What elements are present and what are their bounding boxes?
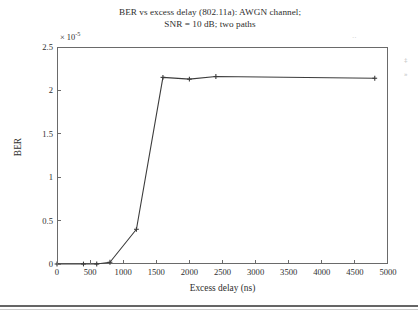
y-tick-mark [57,90,61,91]
x-tick-label: 0 [55,267,59,277]
x-tick-mark [90,260,91,264]
x-tick-mark [387,260,388,264]
x-tick-mark [288,260,289,264]
data-point-marker [187,77,192,82]
y-axis-exponent: × 10-5 [60,30,80,42]
y-tick-mark [57,47,61,48]
data-point-marker [213,74,218,79]
x-tick-label: 500 [84,267,97,277]
data-series-svg [57,47,388,264]
series-line-ber [57,77,375,264]
x-axis-label: Excess delay (ns) [57,283,388,293]
series-markers-ber [55,74,378,266]
x-tick-label: 3500 [280,267,297,277]
x-tick-mark [255,260,256,264]
x-tick-label: 2000 [181,267,198,277]
data-point-marker [372,76,377,81]
x-tick-label: 3000 [247,267,264,277]
x-tick-mark [321,260,322,264]
page-separator-rule [0,305,418,307]
x-tick-label: 4500 [346,267,363,277]
y-tick-mark [57,220,61,221]
x-tick-mark [222,260,223,264]
y-tick-label: 0 [7,259,53,269]
y-tick-label: 2 [7,85,53,95]
x-axis-tick-labels: 0500100015002000250030003500400045005000 [57,267,388,281]
x-tick-label: 5000 [379,267,396,277]
chart-title-line-2: SNR = 10 dB; two paths [60,18,360,30]
y-tick-mark [57,264,61,265]
y-tick-label: 0.5 [7,216,53,226]
x-tick-mark [189,260,190,264]
y-axis-label: BER [13,117,23,177]
x-tick-mark [123,260,124,264]
y-tick-mark [57,177,61,178]
data-point-marker [161,75,166,80]
plot-area [57,47,388,264]
scan-artifact-right-2: » [404,70,408,78]
scan-artifact-top: ·· [352,34,357,42]
chart-figure: BER vs excess delay (802.11a): AWGN chan… [0,0,418,314]
x-tick-mark [156,260,157,264]
x-tick-mark [354,260,355,264]
y-tick-label: 2.5 [7,42,53,52]
x-tick-label: 2500 [214,267,231,277]
data-point-marker [94,262,99,267]
page-separator-rule-secondary [0,309,418,310]
chart-title-line-1: BER vs excess delay (802.11a): AWGN chan… [60,6,360,18]
x-tick-mark [57,260,58,264]
x-tick-label: 1000 [115,267,132,277]
chart-title: BER vs excess delay (802.11a): AWGN chan… [60,6,360,30]
scan-artifact-right-1: ‡ [404,56,408,64]
y-tick-mark [57,133,61,134]
x-tick-label: 1500 [148,267,165,277]
y-axis-exponent-power: -5 [75,30,80,37]
data-point-marker [81,262,86,267]
x-tick-label: 4000 [313,267,330,277]
y-axis-exponent-prefix: × 10 [60,33,75,42]
